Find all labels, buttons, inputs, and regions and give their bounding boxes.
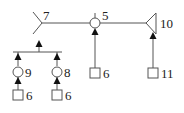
square-node-11 xyxy=(148,68,158,78)
fork-upper-branch xyxy=(33,12,42,23)
circle-node-9 xyxy=(13,67,23,77)
label-6-mid: 6 xyxy=(103,66,110,81)
square-node-6-mid xyxy=(90,68,100,78)
label-7: 7 xyxy=(43,8,50,23)
label-9: 9 xyxy=(25,65,32,80)
circle-5-shape xyxy=(90,18,100,28)
tree-diagram: 7 5 10 6 11 9 6 8 6 xyxy=(0,0,184,113)
label-11: 11 xyxy=(161,66,174,81)
arrow-up-icon xyxy=(15,77,22,84)
arrow-up-icon xyxy=(15,53,22,60)
square-node-6-right xyxy=(52,90,62,100)
arrow-up-icon xyxy=(92,28,99,35)
triangle-node-10 xyxy=(146,13,156,34)
circle-node-5 xyxy=(90,13,100,28)
arrow-up-icon xyxy=(36,40,43,47)
label-5: 5 xyxy=(102,8,109,23)
label-10: 10 xyxy=(160,16,173,31)
square-node-6-left xyxy=(13,90,23,100)
arrow-up-icon xyxy=(54,77,61,84)
label-6-right: 6 xyxy=(65,88,72,103)
circle-node-8 xyxy=(52,67,62,77)
label-8: 8 xyxy=(64,65,71,80)
fork-lower-branch xyxy=(33,23,42,34)
fork-node-7 xyxy=(33,12,42,34)
arrow-up-icon xyxy=(54,53,61,60)
label-6-left: 6 xyxy=(26,88,33,103)
